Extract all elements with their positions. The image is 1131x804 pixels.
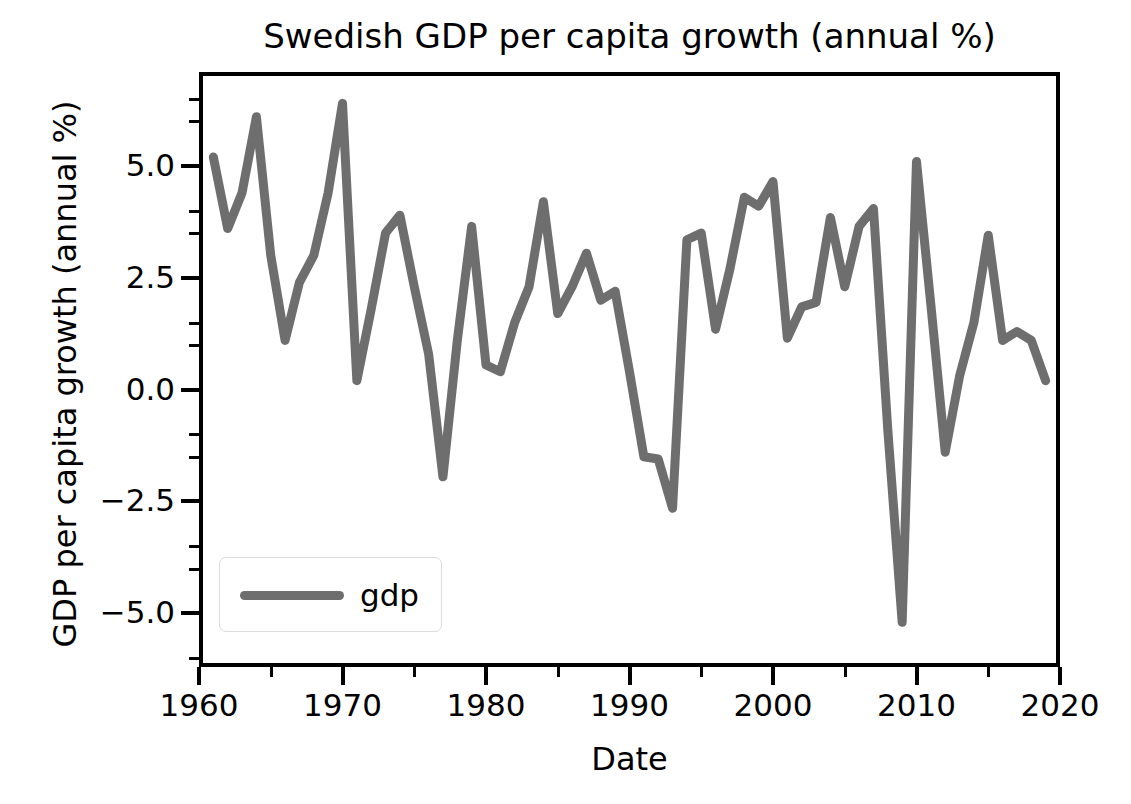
y-tick-mark-minor xyxy=(189,568,199,571)
x-tick-mark xyxy=(1058,667,1062,685)
x-tick-label: 2020 xyxy=(990,690,1130,721)
x-tick-mark xyxy=(915,667,919,685)
y-tick-mark xyxy=(181,499,199,503)
x-tick-mark-minor xyxy=(987,667,990,677)
x-tick-mark-minor xyxy=(557,667,560,677)
y-tick-mark-minor xyxy=(189,120,199,123)
legend-label-gdp: gdp xyxy=(360,576,419,614)
x-tick-label: 2000 xyxy=(703,690,843,721)
x-tick-mark xyxy=(197,667,201,685)
x-tick-label: 1960 xyxy=(129,690,269,721)
chart-figure: Swedish GDP per capita growth (annual %)… xyxy=(0,0,1131,804)
y-tick-mark-minor xyxy=(189,657,199,660)
x-tick-label: 1970 xyxy=(273,690,413,721)
y-tick-mark-minor xyxy=(189,98,199,101)
x-tick-mark xyxy=(771,667,775,685)
legend-line-swatch xyxy=(240,591,344,600)
y-tick-mark-minor xyxy=(189,344,199,347)
y-tick-mark-minor xyxy=(189,456,199,459)
y-tick-mark xyxy=(181,164,199,168)
x-tick-mark-minor xyxy=(700,667,703,677)
y-tick-mark-minor xyxy=(189,322,199,325)
x-tick-labels: 1960197019801990200020102020 xyxy=(0,0,1131,804)
x-tick-mark-minor xyxy=(270,667,273,677)
x-tick-mark-minor xyxy=(413,667,416,677)
x-tick-mark-minor xyxy=(844,667,847,677)
x-tick-mark xyxy=(484,667,488,685)
y-tick-mark-minor xyxy=(189,232,199,235)
x-tick-label: 2010 xyxy=(847,690,987,721)
y-tick-mark-minor xyxy=(189,545,199,548)
chart-legend[interactable]: gdp xyxy=(219,557,442,632)
y-tick-mark xyxy=(181,611,199,615)
x-tick-label: 1990 xyxy=(560,690,700,721)
y-tick-mark-minor xyxy=(189,433,199,436)
y-tick-mark-minor xyxy=(189,210,199,213)
y-tick-mark xyxy=(181,388,199,392)
y-tick-mark xyxy=(181,276,199,280)
x-tick-label: 1980 xyxy=(416,690,556,721)
x-tick-mark xyxy=(341,667,345,685)
x-tick-mark xyxy=(628,667,632,685)
